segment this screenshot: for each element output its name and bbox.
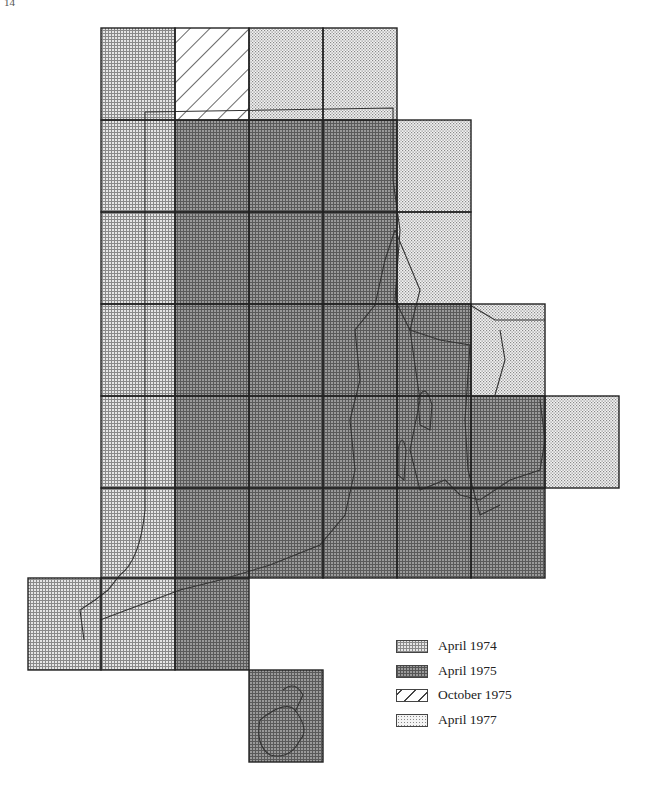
- map-tile: [471, 488, 545, 578]
- map-tile: [397, 396, 471, 488]
- map-tile: [249, 396, 323, 488]
- coverage-map: [0, 0, 651, 805]
- map-tile: [249, 488, 323, 578]
- map-tile: [323, 488, 397, 578]
- map-tile: [101, 212, 175, 304]
- map-tile: [101, 28, 175, 120]
- swatch-april-1977: [396, 714, 428, 727]
- map-tile: [101, 120, 175, 212]
- map-tile: [101, 578, 175, 670]
- map-tile: [101, 396, 175, 488]
- swatch-april-1974: [396, 640, 428, 653]
- map-tile: [175, 304, 249, 396]
- map-tile: [397, 304, 471, 396]
- map-tile: [249, 670, 323, 762]
- map-tile: [249, 304, 323, 396]
- map-tile: [471, 304, 545, 396]
- map-tile: [101, 304, 175, 396]
- map-tile: [249, 28, 323, 120]
- map-tile: [175, 488, 249, 578]
- map-tile: [545, 396, 619, 488]
- map-tile: [175, 212, 249, 304]
- map-tile: [249, 212, 323, 304]
- swatch-october-1975: [396, 689, 428, 702]
- map-tile: [323, 28, 397, 120]
- map-tile: [101, 488, 175, 578]
- map-tile: [397, 488, 471, 578]
- map-tile: [28, 578, 101, 670]
- map-tile: [175, 396, 249, 488]
- swatch-april-1975: [396, 665, 428, 678]
- map-tile: [323, 396, 397, 488]
- map-tile: [175, 120, 249, 212]
- map-tile: [471, 396, 545, 488]
- map-tile: [397, 212, 471, 304]
- map-tile: [397, 120, 471, 212]
- map-tile: [249, 120, 323, 212]
- map-tile: [323, 120, 397, 212]
- map-tile: [175, 578, 249, 670]
- map-tile: [175, 28, 249, 120]
